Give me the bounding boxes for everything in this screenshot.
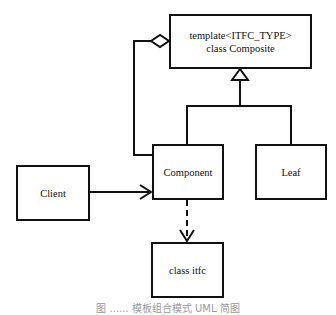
itfc-label: class itfc xyxy=(169,264,206,277)
composite-template-label: template<ITFC_TYPE> xyxy=(189,29,291,42)
aggregation-diamond-icon xyxy=(151,35,169,47)
class-composite: template<ITFC_TYPE> class Composite xyxy=(169,14,312,69)
dependency-connector xyxy=(180,200,194,241)
class-itfc: class itfc xyxy=(151,242,224,298)
figure-caption: 图 ...... 模板组合模式 UML 简图 xyxy=(0,300,336,315)
client-label: Client xyxy=(40,187,66,200)
association-connector xyxy=(89,185,151,199)
inheritance-triangle-icon xyxy=(232,69,248,80)
class-client: Client xyxy=(16,165,90,221)
class-component: Component xyxy=(152,144,224,200)
aggregation-connector xyxy=(134,35,169,155)
composite-class-label: class Composite xyxy=(206,42,275,55)
leaf-label: Leaf xyxy=(281,166,300,179)
class-leaf: Leaf xyxy=(255,144,327,200)
component-label: Component xyxy=(164,166,213,179)
inheritance-connector xyxy=(187,69,291,144)
